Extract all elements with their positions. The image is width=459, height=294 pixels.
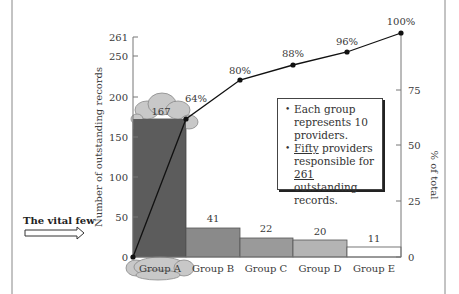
y-axis-label: Number of outstanding records bbox=[93, 67, 104, 227]
value-group-c: 22 bbox=[260, 223, 273, 234]
y2tick-25: 25 bbox=[408, 196, 421, 207]
note-item-2: Fifty providers responsible for 261 outs… bbox=[294, 142, 378, 207]
y2tick-50: 50 bbox=[408, 140, 421, 151]
y2tick-75: 75 bbox=[408, 85, 421, 96]
value-group-d: 20 bbox=[314, 226, 327, 237]
pct-100: 100% bbox=[387, 16, 416, 27]
bar-group-c bbox=[240, 238, 293, 257]
y2tick-0: 0 bbox=[408, 252, 414, 263]
bar-a-top-cover bbox=[133, 119, 186, 129]
category-group-e: Group E bbox=[353, 263, 395, 274]
left-axis-ticks: 261 250 200 150 100 50 0 bbox=[109, 32, 128, 263]
pareto-chart: 261 250 200 150 100 50 0 Number of outst… bbox=[0, 0, 459, 294]
vital-few-label: The vital few bbox=[23, 215, 95, 226]
bar-group-e bbox=[347, 247, 401, 257]
pct-88: 88% bbox=[282, 48, 304, 59]
note-item-1: Each group represents 10 providers. bbox=[294, 103, 378, 142]
bar-group-b bbox=[186, 228, 240, 257]
ytick-0: 0 bbox=[122, 252, 128, 263]
ytick-100: 100 bbox=[109, 172, 128, 183]
ytick-250: 250 bbox=[109, 51, 128, 62]
category-group-c: Group C bbox=[245, 263, 288, 274]
right-axis bbox=[396, 33, 401, 257]
pct-80: 80% bbox=[229, 65, 251, 76]
pct-64: 64% bbox=[185, 93, 207, 104]
annotation-box: Each group represents 10 providers. Fift… bbox=[277, 98, 383, 190]
value-group-a: 167 bbox=[151, 106, 170, 117]
right-axis-ticks: 75 50 25 0 bbox=[408, 85, 421, 263]
bar-group-d bbox=[293, 240, 347, 257]
category-group-d: Group D bbox=[299, 263, 342, 274]
category-group-b: Group B bbox=[192, 263, 234, 274]
ytick-200: 200 bbox=[109, 92, 128, 103]
arrow-right-icon bbox=[25, 227, 84, 239]
value-group-b: 41 bbox=[207, 213, 220, 224]
y2-axis-label: % of total bbox=[429, 151, 440, 200]
category-group-a: Group A bbox=[139, 263, 182, 274]
value-group-e: 11 bbox=[368, 233, 381, 244]
ytick-50: 50 bbox=[115, 212, 128, 223]
ytick-261: 261 bbox=[109, 32, 128, 43]
pct-96: 96% bbox=[336, 36, 358, 47]
ytick-150: 150 bbox=[109, 132, 128, 143]
